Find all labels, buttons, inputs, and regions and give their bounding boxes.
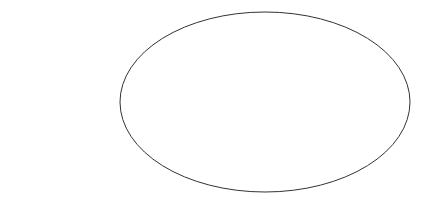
- sun-radiation-diagram: [0, 0, 446, 200]
- diagram-canvas: [0, 0, 446, 200]
- sun-limb-circle: [120, 12, 410, 192]
